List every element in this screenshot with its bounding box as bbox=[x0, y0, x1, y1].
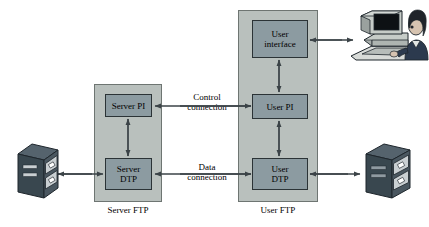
user-pi-label: User PI bbox=[266, 102, 293, 112]
user-file-storage-icon bbox=[362, 140, 414, 202]
user-pi-box: User PI bbox=[252, 94, 308, 119]
server-ftp-caption: Server FTP bbox=[94, 205, 162, 215]
user-dtp-box: User DTP bbox=[252, 158, 308, 190]
user-ftp-caption: User FTP bbox=[238, 205, 318, 215]
user-at-computer-icon bbox=[350, 8, 429, 70]
control-connection-label: Control connection bbox=[176, 92, 238, 112]
connection-arrows bbox=[0, 0, 429, 227]
data-connection-label: Data connection bbox=[176, 162, 238, 182]
ftp-model-diagram: Server PI Server DTP Server FTP User int… bbox=[0, 0, 429, 227]
server-dtp-label: Server DTP bbox=[117, 164, 141, 184]
user-interface-box: User interface bbox=[252, 20, 308, 58]
server-dtp-box: Server DTP bbox=[105, 158, 152, 190]
server-pi-label: Server PI bbox=[112, 101, 146, 111]
user-dtp-label: User DTP bbox=[271, 164, 288, 184]
server-file-storage-icon bbox=[14, 140, 62, 202]
user-interface-label: User interface bbox=[264, 29, 295, 49]
server-pi-box: Server PI bbox=[105, 94, 152, 117]
